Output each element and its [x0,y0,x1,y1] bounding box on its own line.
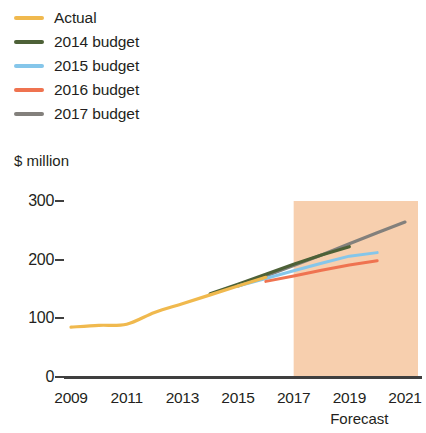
y-axis-tick-100: 100 [8,309,54,327]
forecast-caption: Forecast [330,410,388,427]
x-axis-line [64,376,422,379]
chart-svg [0,0,426,433]
x-axis-tick-2013: 2013 [166,389,199,407]
y-axis-tick-300: 300 [8,192,54,210]
y-axis-tick-mark [55,259,64,261]
x-axis-tick-2011: 2011 [111,389,143,407]
x-axis-tick-2019: 2019 [333,389,366,407]
forecast-shaded-band [294,201,418,377]
y-axis-tick-0: 0 [8,368,54,386]
x-axis-tick-2015: 2015 [221,389,254,407]
y-axis-tick-mark [55,200,64,202]
x-axis-tick-2021: 2021 [388,389,421,407]
y-axis-tick-mark [55,317,64,319]
x-axis-tick-2017: 2017 [277,389,310,407]
x-axis-tick-2009: 2009 [54,389,87,407]
y-axis-tick-200: 200 [8,251,54,269]
y-axis-tick-mark [55,376,64,378]
chart-plot-area: 3002001000 2009201120132015201720192021 … [0,0,426,433]
